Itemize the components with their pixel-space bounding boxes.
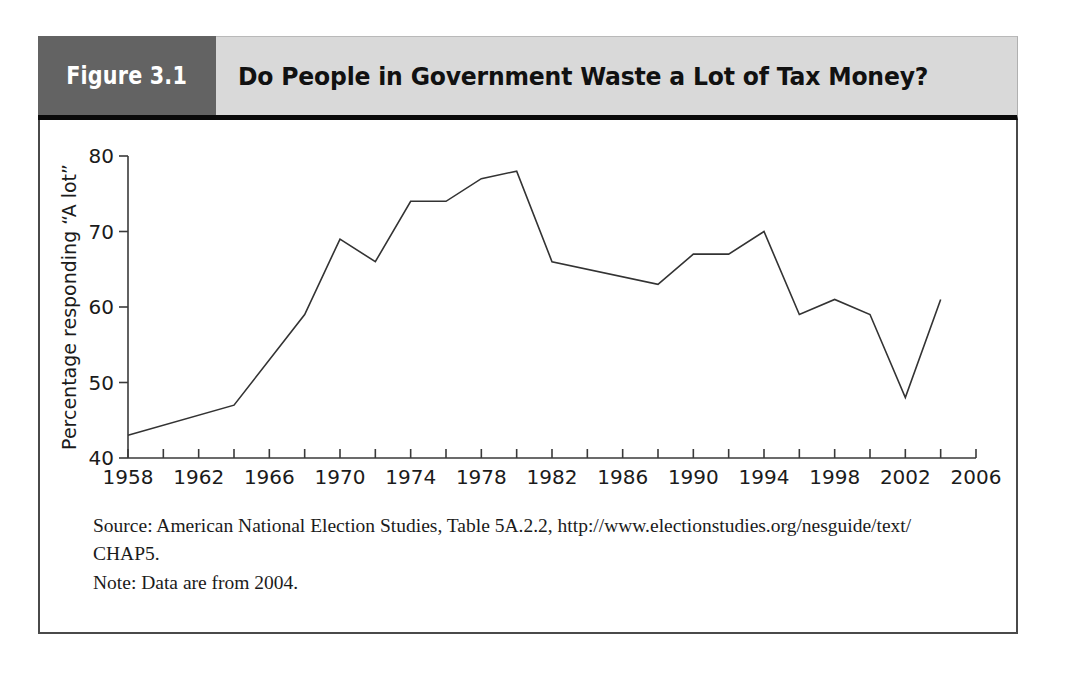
y-tick-label: 60 bbox=[89, 295, 114, 319]
x-tick-label: 2002 bbox=[880, 465, 931, 489]
y-axis-title-text: Percentage responding “A lot” bbox=[58, 164, 80, 450]
x-tick-label: 1986 bbox=[597, 465, 648, 489]
x-tick-label: 1998 bbox=[809, 465, 860, 489]
figure-title: Do People in Government Waste a Lot of T… bbox=[238, 62, 928, 91]
figure-header: Figure 3.1 Do People in Government Waste… bbox=[38, 36, 1018, 120]
x-tick-label: 1994 bbox=[739, 465, 790, 489]
y-axis: 4050607080 bbox=[89, 144, 128, 470]
x-tick-label: 2006 bbox=[951, 465, 1002, 489]
series-polyline bbox=[128, 171, 941, 435]
y-axis-title: Percentage responding “A lot” bbox=[58, 164, 80, 450]
x-tick-label: 1978 bbox=[456, 465, 507, 489]
x-axis: 1958196219661970197419781982198619901994… bbox=[103, 449, 1002, 489]
data-note: Note: Data are from 2004. bbox=[93, 567, 973, 597]
x-tick-label: 1974 bbox=[385, 465, 436, 489]
x-tick-label: 1982 bbox=[527, 465, 578, 489]
x-tick-label: 1970 bbox=[315, 465, 366, 489]
source-note-line-1: Source: American National Election Studi… bbox=[93, 512, 973, 540]
figure-number-block: Figure 3.1 bbox=[38, 36, 216, 120]
figure-page: Figure 3.1 Do People in Government Waste… bbox=[0, 0, 1066, 675]
line-chart: 4050607080 19581962196619701974197819821… bbox=[38, 128, 1018, 498]
chart-svg: 4050607080 19581962196619701974197819821… bbox=[38, 128, 1018, 498]
figure-title-block: Do People in Government Waste a Lot of T… bbox=[216, 36, 1018, 120]
figure-number-label: Figure 3.1 bbox=[67, 61, 188, 90]
y-tick-label: 50 bbox=[89, 371, 114, 395]
x-tick-label: 1958 bbox=[103, 465, 154, 489]
x-tick-label: 1966 bbox=[244, 465, 295, 489]
y-tick-label: 80 bbox=[89, 144, 114, 168]
source-note-line-2: CHAP5. bbox=[93, 540, 973, 568]
y-tick-label: 70 bbox=[89, 220, 114, 244]
x-tick-label: 1962 bbox=[173, 465, 224, 489]
x-tick-label: 1990 bbox=[668, 465, 719, 489]
figure-notes: Source: American National Election Studi… bbox=[93, 512, 973, 597]
data-series-line bbox=[128, 171, 941, 435]
